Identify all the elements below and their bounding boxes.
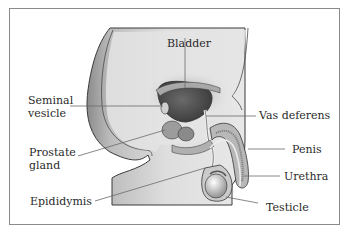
label-prostate-line2: gland <box>29 160 60 172</box>
label-penis: Penis <box>292 144 322 156</box>
label-prostate-line1: Prostate <box>29 147 76 159</box>
label-testicle: Testicle <box>266 202 309 214</box>
label-urethra: Urethra <box>284 171 328 183</box>
label-vas-deferens: Vas deferens <box>259 110 330 122</box>
label-epididymis: Epididymis <box>30 196 92 208</box>
testicle-shape <box>205 174 227 198</box>
label-seminal-vesicle-line2: vesicle <box>28 108 66 120</box>
label-seminal-vesicle-line1: Seminal <box>28 95 73 107</box>
label-bladder: Bladder <box>167 38 211 50</box>
